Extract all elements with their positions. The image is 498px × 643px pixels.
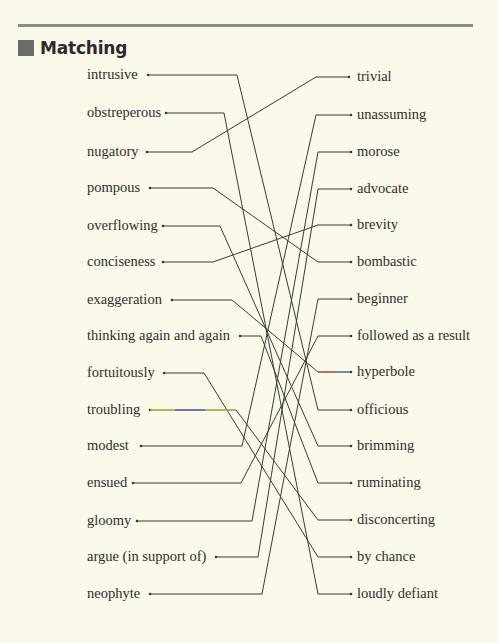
match-line-modest	[140, 114, 353, 448]
left-item-overflowing[interactable]: overflowing	[87, 217, 158, 233]
matching-lines	[0, 0, 498, 643]
endpoint-dot	[350, 151, 353, 154]
left-item-exaggeration[interactable]: exaggeration	[87, 291, 162, 307]
right-item-beginner[interactable]: beginner	[357, 290, 408, 306]
right-item-brimming[interactable]: brimming	[357, 437, 414, 453]
left-item-gloomy[interactable]: gloomy	[87, 512, 131, 528]
right-item-officious[interactable]: officious	[357, 401, 408, 417]
endpoint-dot	[350, 261, 353, 264]
right-item-ruminating[interactable]: ruminating	[357, 474, 421, 490]
endpoint-dot	[149, 187, 152, 190]
left-item-intrusive[interactable]: intrusive	[87, 66, 138, 82]
right-item-disconcerting[interactable]: disconcerting	[357, 511, 435, 527]
endpoint-dot	[350, 298, 353, 301]
left-item-nugatory[interactable]: nugatory	[87, 143, 139, 159]
endpoint-dot	[215, 556, 218, 559]
right-item-morose[interactable]: morose	[357, 143, 400, 159]
endpoint-dot	[136, 520, 139, 523]
right-item-by-chance[interactable]: by chance	[357, 548, 415, 564]
left-item-ensued[interactable]: ensued	[87, 474, 127, 490]
right-item-brevity[interactable]: brevity	[357, 216, 398, 232]
left-item-fortuitously[interactable]: fortuitously	[87, 364, 155, 380]
left-item-neophyte[interactable]: neophyte	[87, 585, 140, 601]
left-item-troubling[interactable]: troubling	[87, 401, 140, 417]
endpoint-dot	[162, 225, 165, 228]
endpoint-dot	[350, 482, 353, 485]
endpoint-dot	[350, 445, 353, 448]
endpoint-dot	[350, 114, 353, 117]
endpoint-dot	[147, 74, 150, 77]
endpoint-dot	[350, 371, 353, 374]
endpoint-dot	[163, 372, 166, 375]
left-item-pompous[interactable]: pompous	[87, 179, 140, 195]
match-line-fortuitously	[163, 372, 353, 559]
left-item-obstreperous[interactable]: obstreperous	[87, 104, 161, 120]
endpoint-dot	[350, 335, 353, 338]
endpoint-dot	[146, 151, 149, 154]
right-item-bombastic[interactable]: bombastic	[357, 253, 417, 269]
endpoint-dot	[162, 261, 165, 264]
endpoint-dot	[350, 409, 353, 412]
endpoint-dot	[171, 299, 174, 302]
right-item-unassuming[interactable]: unassuming	[357, 106, 426, 122]
match-line-argue-in-support-of	[215, 188, 353, 559]
endpoint-dot	[350, 556, 353, 559]
left-item-argue-in-support-of[interactable]: argue (in support of)	[87, 548, 206, 564]
endpoint-dot	[165, 112, 168, 115]
right-item-trivial[interactable]: trivial	[357, 68, 392, 84]
right-item-followed-as-a-result[interactable]: followed as a result	[357, 327, 470, 343]
endpoint-dot	[350, 593, 353, 596]
endpoint-dot	[350, 188, 353, 191]
right-item-advocate[interactable]: advocate	[357, 180, 409, 196]
endpoint-dot	[350, 224, 353, 227]
left-item-modest[interactable]: modest	[87, 437, 129, 453]
endpoint-dot	[140, 445, 143, 448]
endpoint-dot	[149, 593, 152, 596]
endpoint-dot	[348, 76, 351, 79]
match-line-obstreperous	[165, 112, 353, 596]
right-item-hyperbole[interactable]: hyperbole	[357, 363, 415, 379]
endpoint-dot	[239, 335, 242, 338]
left-item-conciseness[interactable]: conciseness	[87, 253, 155, 269]
left-item-thinking-again-and-again[interactable]: thinking again and again	[87, 327, 230, 343]
endpoint-dot	[350, 519, 353, 522]
match-line-conciseness	[162, 224, 353, 264]
right-item-loudly-defiant[interactable]: loudly defiant	[357, 585, 438, 601]
endpoint-dot	[132, 482, 135, 485]
